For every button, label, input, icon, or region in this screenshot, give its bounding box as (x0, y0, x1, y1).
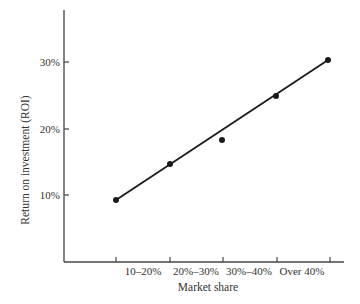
data-point (325, 57, 331, 63)
x-ticks: 10–20% 20%–30% 30%–40% Over 40% (116, 257, 330, 277)
y-tick-label-30: 30% (40, 56, 60, 68)
x-tick-label-3: 30%–40% (226, 265, 272, 277)
data-point (113, 197, 119, 203)
y-tick-label-10: 10% (40, 189, 60, 201)
roi-vs-market-share-chart: 30% 20% 10% 10–20% 20%–30% 30%–40% Over … (0, 0, 360, 304)
x-axis-title: Market share (178, 281, 238, 293)
x-tick-label-1: 10–20% (125, 265, 162, 277)
x-tick-label-2: 20%–30% (173, 265, 219, 277)
y-tick-label-20: 20% (40, 123, 60, 135)
data-point (167, 161, 173, 167)
x-tick-label-4: Over 40% (280, 265, 325, 277)
trend-line (116, 60, 328, 200)
data-point (219, 137, 225, 143)
data-point (273, 93, 279, 99)
y-axis-title: Return on investment (ROI) (19, 95, 32, 225)
